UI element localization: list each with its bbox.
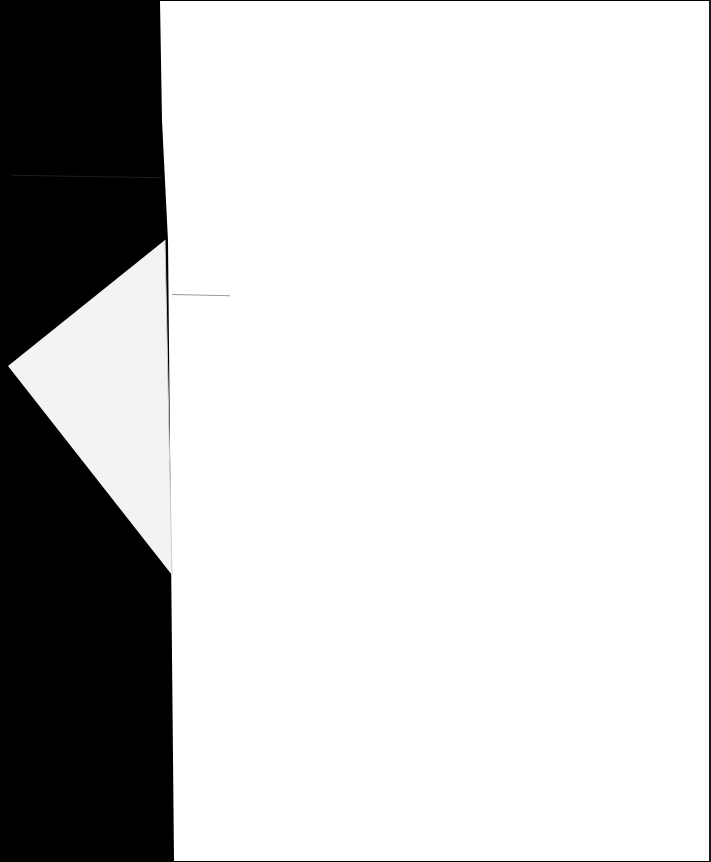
scan-background [0, 0, 711, 862]
page-left-edge [0, 0, 711, 862]
